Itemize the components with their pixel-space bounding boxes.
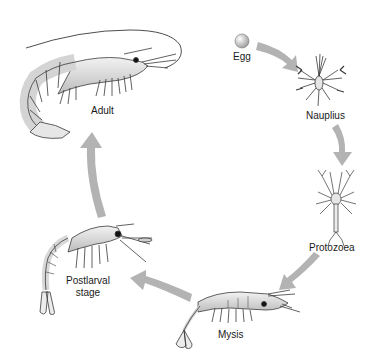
egg-illustration [235,34,249,48]
label-egg: Egg [233,51,251,63]
arrow-nauplius-to-protozoea [332,124,352,166]
arrow-postlarval-to-adult [80,132,106,218]
label-protozoea: Protozoea [309,242,355,254]
protozoea-illustration [316,170,356,246]
label-mysis: Mysis [218,329,244,341]
adult-illustration [26,30,181,138]
arrow-egg-to-nauplius [256,42,298,72]
diagram-canvas [0,0,374,357]
arrow-protozoea-to-mysis [279,252,320,290]
nauplius-illustration [296,54,346,106]
postlarval-illustration [40,224,152,315]
label-adult: Adult [91,105,114,117]
label-postlarval-line1: Postlarval [66,275,110,287]
label-postlarval: Postlarval stage [66,275,110,299]
label-postlarval-line2: stage [66,287,110,299]
label-nauplius: Nauplius [306,110,345,122]
shrimp-life-cycle-diagram: Egg Nauplius Protozoea Mysis Postlarval … [0,0,374,357]
arrow-mysis-to-postlarval [130,270,192,302]
